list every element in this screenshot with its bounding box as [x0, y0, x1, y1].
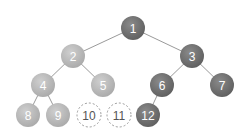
tree-node-8: 8: [16, 103, 40, 127]
tree-node-9: 9: [46, 103, 70, 127]
tree-node-7: 7: [210, 73, 234, 97]
node-label: 2: [70, 50, 77, 64]
tree-edges: [28, 28, 222, 115]
tree-node-6: 6: [150, 73, 174, 97]
node-label: 7: [219, 79, 226, 93]
tree-node-10: 10: [77, 103, 101, 127]
tree-node-3: 3: [180, 44, 204, 68]
tree-node-5: 5: [91, 73, 115, 97]
tree-node-11: 11: [107, 103, 131, 127]
node-label: 10: [82, 109, 96, 123]
node-label: 11: [113, 109, 126, 123]
node-label: 8: [25, 109, 32, 123]
tree-node-4: 4: [31, 73, 55, 97]
node-label: 5: [100, 79, 107, 93]
tree-node-12: 12: [136, 103, 160, 127]
node-label: 9: [55, 109, 62, 123]
node-label: 4: [40, 79, 47, 93]
tree-node-1: 1: [121, 16, 145, 40]
node-label: 1: [130, 22, 137, 36]
tree-node-2: 2: [61, 44, 85, 68]
tree-nodes: 123456789101112: [16, 16, 234, 127]
binary-tree-diagram: 123456789101112: [0, 0, 250, 138]
node-label: 6: [159, 79, 166, 93]
node-label: 3: [189, 50, 196, 64]
node-label: 12: [141, 109, 155, 123]
